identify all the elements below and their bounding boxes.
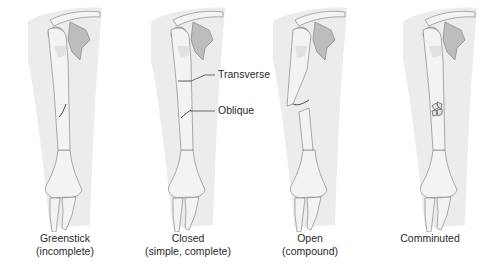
caption-title: Comminuted — [375, 232, 481, 245]
panel-closed: Closed (simple, complete) — [133, 0, 243, 268]
caption-closed: Closed (simple, complete) — [133, 232, 243, 257]
caption-subtitle: (incomplete) — [10, 245, 120, 258]
caption-title: Closed — [133, 232, 243, 245]
panel-open: Open (compound) — [255, 0, 365, 268]
comminuted-fracture-illustration — [385, 0, 481, 232]
caption-title: Open — [255, 232, 365, 245]
caption-comminuted: Comminuted — [375, 232, 481, 245]
panel-greenstick: Greenstick (incomplete) — [10, 0, 120, 268]
caption-title: Greenstick — [10, 232, 120, 245]
panel-comminuted: Comminuted — [385, 0, 481, 268]
caption-greenstick: Greenstick (incomplete) — [10, 232, 120, 257]
closed-fracture-illustration — [133, 0, 243, 232]
caption-subtitle: (simple, complete) — [133, 245, 243, 258]
open-fracture-illustration — [255, 0, 365, 232]
callout-oblique: Oblique — [218, 104, 254, 116]
caption-open: Open (compound) — [255, 232, 365, 257]
caption-subtitle: (compound) — [255, 245, 365, 258]
greenstick-fracture-illustration — [10, 0, 120, 232]
